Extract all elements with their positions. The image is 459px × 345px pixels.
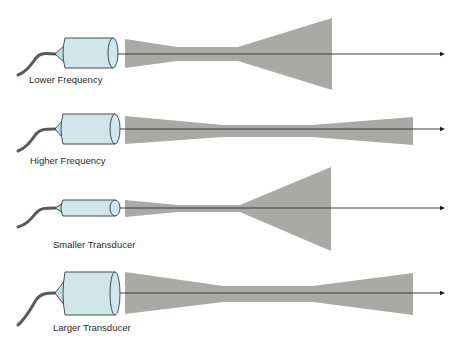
transducer-face [110, 114, 120, 144]
panel-label: Larger Transducer [53, 322, 131, 333]
arrowhead-icon [440, 206, 445, 210]
transducer-cable [18, 53, 55, 75]
arrowhead-icon [440, 127, 445, 131]
beam-diagram: Lower FrequencyHigher FrequencySmaller T… [0, 0, 459, 345]
transducer-body [61, 114, 115, 144]
ultrasound-beam [125, 167, 331, 251]
panel-label: Lower Frequency [29, 74, 103, 85]
panel-label: Smaller Transducer [53, 239, 135, 250]
transducer-face [110, 272, 120, 315]
transducer-body [63, 272, 115, 315]
transducer [55, 114, 120, 144]
panel-lower-frequency: Lower Frequency [18, 18, 445, 90]
transducer-body [61, 200, 115, 216]
transducer [55, 200, 120, 216]
ultrasound-beam [125, 272, 413, 315]
transducer-face [110, 200, 120, 216]
transducer-cable [18, 293, 55, 325]
arrowhead-icon [440, 52, 445, 56]
transducer-cable [18, 208, 55, 227]
transducer [55, 272, 120, 315]
panel-label: Higher Frequency [30, 155, 106, 166]
ultrasound-beam [125, 116, 413, 145]
transducer-cable [18, 129, 55, 151]
panel-larger-transducer: Larger Transducer [18, 272, 445, 333]
panel-smaller-transducer: Smaller Transducer [18, 167, 445, 251]
panel-higher-frequency: Higher Frequency [18, 114, 445, 166]
transducer-body [63, 38, 113, 68]
arrowhead-icon [440, 291, 445, 295]
transducer [55, 38, 118, 68]
transducer-face [108, 38, 118, 68]
